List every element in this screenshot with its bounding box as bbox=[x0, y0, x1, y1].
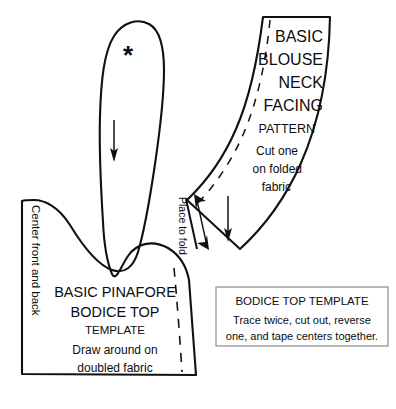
bodice-title-line-3: TEMPLATE bbox=[85, 324, 145, 336]
facing-instruction-line-1: Cut one bbox=[256, 144, 298, 158]
bodice-instruction-line-2: doubled fabric bbox=[77, 361, 152, 375]
facing-instruction-line-2: on folded bbox=[253, 162, 302, 176]
pattern-illustration: * Center front and back BASIC PINAFORE B… bbox=[0, 0, 396, 409]
facing-title-line-4: FACING bbox=[263, 97, 323, 114]
asterisk-marker: * bbox=[123, 40, 134, 70]
facing-title-line-1: BASIC bbox=[275, 28, 323, 45]
bodice-instruction-line-1: Draw around on bbox=[72, 343, 157, 357]
facing-title-line-3: NECK bbox=[279, 74, 324, 91]
bodice-title-line-1: BASIC PINAFORE bbox=[54, 284, 176, 300]
note-box-heading: BODICE TOP TEMPLATE bbox=[235, 295, 368, 307]
note-box: BODICE TOP TEMPLATE Trace twice, cut out… bbox=[216, 287, 388, 346]
facing-subtitle: PATTERN bbox=[259, 122, 315, 136]
facing-instruction-line-3: fabric bbox=[262, 180, 291, 194]
note-box-body-line-2: one, and tape centers together. bbox=[226, 330, 378, 342]
pattern-sheet: * Center front and back BASIC PINAFORE B… bbox=[0, 0, 396, 409]
bodice-title-line-2: BODICE TOP bbox=[71, 304, 160, 320]
facing-title-line-2: BLOUSE bbox=[258, 51, 323, 68]
center-front-and-back-label: Center front and back bbox=[30, 205, 42, 316]
note-box-body-line-1: Trace twice, cut out, reverse bbox=[233, 314, 371, 326]
place-to-fold-label: Place to fold bbox=[177, 197, 189, 255]
